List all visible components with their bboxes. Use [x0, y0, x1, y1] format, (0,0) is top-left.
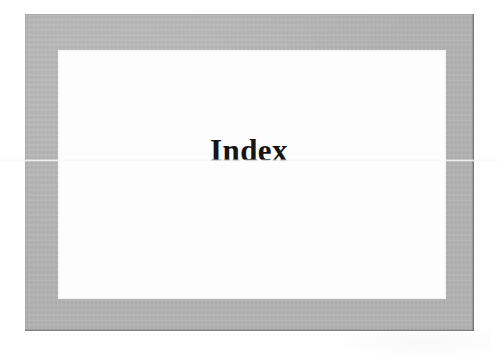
frame-left-edge	[25, 14, 26, 331]
frame-right-shadow	[472, 14, 474, 331]
frame-bottom-shadow	[25, 329, 474, 331]
page-title: Index	[210, 135, 288, 166]
paper-tone-artifact	[330, 330, 490, 358]
frame-top-edge	[25, 14, 474, 15]
gray-border-frame: Index	[25, 14, 474, 331]
scanned-page: Index	[0, 0, 497, 361]
inner-white-panel: Index	[58, 50, 446, 299]
